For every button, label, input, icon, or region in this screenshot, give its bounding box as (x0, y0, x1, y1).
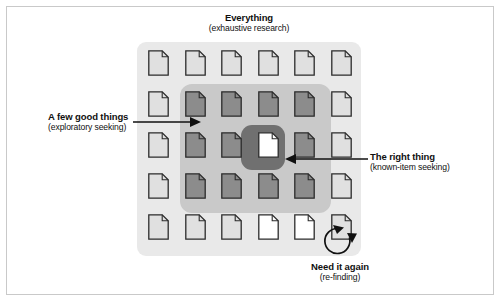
document-icon (294, 50, 315, 76)
document-icon (258, 173, 279, 199)
document-icon (148, 50, 169, 76)
document-icon (331, 132, 352, 158)
document-icon (221, 132, 242, 158)
document-icon (185, 50, 206, 76)
document-icon (294, 214, 315, 240)
document-icon (221, 214, 242, 240)
document-icon (221, 91, 242, 117)
document-icon (258, 50, 279, 76)
label-the-right-thing-sub: (known-item seeking) (370, 163, 494, 173)
document-icon (221, 50, 242, 76)
document-icon (331, 214, 352, 240)
document-icon (294, 91, 315, 117)
document-icon (331, 91, 352, 117)
document-icon (148, 214, 169, 240)
document-icon (258, 214, 279, 240)
document-icon (221, 173, 242, 199)
document-icon (258, 91, 279, 117)
document-icon (331, 173, 352, 199)
label-a-few-good-things-sub: (exploratory seeking) (48, 123, 156, 133)
document-icon (258, 132, 279, 158)
document-icon (294, 132, 315, 158)
label-the-right-thing: The right thing (known-item seeking) (370, 152, 494, 172)
label-everything: Everything (exhaustive research) (161, 13, 337, 33)
document-icon (331, 50, 352, 76)
document-icon (148, 173, 169, 199)
document-icon (185, 214, 206, 240)
document-icon (148, 132, 169, 158)
label-a-few-good-things: A few good things (exploratory seeking) (48, 112, 156, 132)
label-need-it-again-sub: (re-finding) (288, 273, 392, 283)
document-icon (294, 173, 315, 199)
document-icon (185, 91, 206, 117)
label-everything-sub: (exhaustive research) (161, 24, 337, 34)
figure-root: Everything (exhaustive research) A few g… (0, 0, 500, 301)
document-icon (185, 132, 206, 158)
label-need-it-again: Need it again (re-finding) (288, 262, 392, 282)
document-icon (185, 173, 206, 199)
